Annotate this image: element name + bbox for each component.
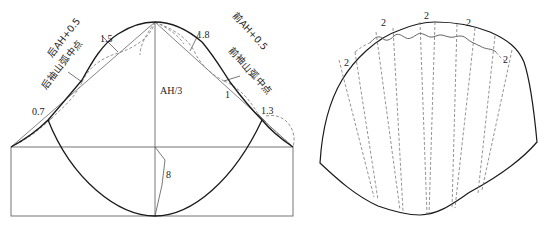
back-mid-leader: [68, 72, 82, 82]
slash-line-3b: [429, 22, 435, 215]
spread-label-left: 2: [344, 57, 349, 68]
gather-wavy-line: [370, 33, 496, 52]
slash-lines: [339, 22, 512, 215]
slash-line-1a: [339, 60, 374, 197]
slash-line-1b: [355, 52, 378, 200]
measure-8-line: [155, 147, 165, 216]
right-sleeve-spread: 2 2 2 2 2: [320, 10, 537, 215]
spread-label-right: 2: [503, 54, 508, 65]
measure-8-label: 8: [166, 169, 171, 180]
spread-label-upper-left: 2: [381, 17, 386, 28]
slash-line-4b: [455, 28, 475, 208]
back-diagonal: [11, 22, 155, 147]
slash-line-2b: [393, 28, 403, 211]
measure-0-7-label: 0.7: [32, 106, 45, 117]
slash-line-3a: [420, 22, 427, 215]
measure-1-8-label: 1.8: [197, 29, 210, 40]
front-dashed-bulge: [266, 115, 294, 147]
front-cap-mid-label: 前袖山弧中点: [227, 45, 275, 97]
measure-1-5-label: 1.5: [100, 33, 113, 44]
slash-line-2a: [376, 32, 400, 210]
measure-1-3-label: 1.3: [261, 105, 274, 116]
cap-height-label: AH/3: [160, 85, 182, 96]
inner-dashed-cap: [355, 43, 506, 62]
slash-line-4a: [452, 24, 457, 209]
drawing-canvas: 后AH+0.5 后袖山弧中点 前AH+0.5 前袖山弧中点 AH/3 1.5 1…: [0, 0, 546, 230]
front-dashed-inner: [155, 22, 184, 44]
spread-label-upper-right: 2: [466, 17, 471, 28]
measure-1-label: 1: [225, 89, 230, 100]
left-sleeve-construction: 后AH+0.5 后袖山弧中点 前AH+0.5 前袖山弧中点 AH/3 1.5 1…: [11, 10, 294, 216]
spread-sleeve-outline: [320, 22, 537, 215]
spread-label-top: 2: [424, 10, 429, 21]
sleeve-body-rectangle: [11, 147, 293, 216]
